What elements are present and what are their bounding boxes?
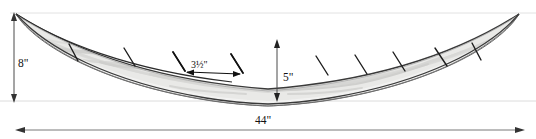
length-dimension-label: 44" (255, 115, 271, 127)
slat-spacing-dimension-label: 3½" (191, 60, 208, 70)
height-dimension (11, 12, 17, 103)
boat-hull-technical-drawing: 8" 5" 3½" 44" (0, 0, 536, 139)
length-dimension (15, 127, 525, 133)
hull-rim-line (16, 14, 519, 89)
height-dimension-label: 8" (18, 58, 28, 70)
slat-mark (355, 55, 367, 74)
hull-inner-line (18, 16, 517, 91)
slat-mark (316, 56, 328, 75)
slat-spacing-dimension (173, 52, 243, 77)
depth-dimension-label: 5" (283, 72, 293, 84)
